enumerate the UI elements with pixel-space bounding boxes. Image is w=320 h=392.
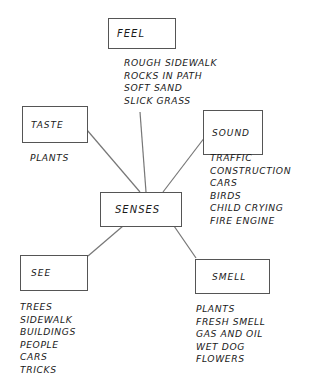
edge-senses-see	[88, 226, 123, 256]
node-senses-label: SENSES	[101, 204, 160, 215]
node-senses: SENSES	[100, 192, 182, 227]
see-items: TREES SIDEWALK BUILDINGS PEOPLE CARS TRI…	[20, 301, 76, 377]
see-item: CARS	[20, 351, 76, 364]
smell-item: WET DOG	[196, 341, 266, 354]
feel-item: SOFT SAND	[124, 82, 217, 95]
node-feel-label: FEEL	[109, 28, 145, 39]
feel-items: ROUGH SIDEWALK ROCKS IN PATH SOFT SAND S…	[124, 57, 217, 107]
taste-item: PLANTS	[30, 152, 69, 165]
feel-item: ROCKS IN PATH	[124, 70, 217, 83]
node-smell-label: SMELL	[196, 272, 246, 282]
sound-items: TRAFFIC CONSTRUCTION CARS BIRDS CHILD CR…	[210, 152, 291, 228]
see-item: TREES	[20, 301, 76, 314]
node-see: SEE	[20, 255, 88, 291]
smell-item: GAS AND OIL	[196, 328, 266, 341]
edge-senses-smell	[174, 226, 196, 258]
sound-item: CARS	[210, 177, 291, 190]
sound-item: TRAFFIC	[210, 152, 291, 165]
feel-item: ROUGH SIDEWALK	[124, 57, 217, 70]
see-item: PEOPLE	[20, 339, 76, 352]
edge-senses-sound	[163, 137, 205, 192]
node-smell: SMELL	[195, 259, 270, 294]
smell-item: FLOWERS	[196, 353, 266, 366]
node-feel: FEEL	[108, 18, 176, 49]
edge-senses-feel	[140, 112, 146, 192]
node-taste-label: TASTE	[23, 120, 64, 130]
see-item: TRICKS	[20, 364, 76, 377]
sound-item: FIRE ENGINE	[210, 215, 291, 228]
node-sound-label: SOUND	[204, 128, 250, 138]
smell-item: PLANTS	[196, 303, 266, 316]
sound-item: CHILD CRYING	[210, 202, 291, 215]
sound-item: CONSTRUCTION	[210, 165, 291, 178]
see-item: BUILDINGS	[20, 326, 76, 339]
taste-items: PLANTS	[30, 152, 69, 165]
feel-item: SLICK GRASS	[124, 95, 217, 108]
node-see-label: SEE	[21, 268, 51, 278]
node-sound: SOUND	[203, 110, 263, 155]
smell-items: PLANTS FRESH SMELL GAS AND OIL WET DOG F…	[196, 303, 266, 366]
sound-item: BIRDS	[210, 190, 291, 203]
node-taste: TASTE	[22, 106, 88, 143]
smell-item: FRESH SMELL	[196, 316, 266, 329]
see-item: SIDEWALK	[20, 314, 76, 327]
edge-senses-taste	[87, 130, 140, 192]
